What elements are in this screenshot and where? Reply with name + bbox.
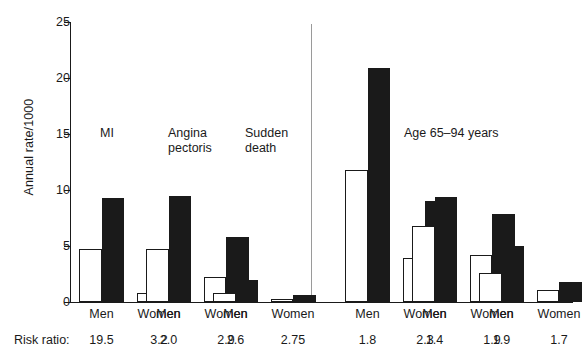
risk-ratio-value-12: 1.7: [529, 333, 583, 347]
category-label-left-panel-0: Men: [71, 307, 132, 321]
category-label-right-panel-0: Men: [337, 307, 398, 321]
annotation-mi: MI: [100, 126, 114, 141]
category-label-left-panel-2: Men: [138, 307, 199, 321]
bar-solid-right-panel-0: [368, 68, 391, 302]
risk-ratio-value-1: 19.5: [71, 333, 132, 347]
bar-open-right-panel-0: [345, 170, 368, 302]
annotation-sudden-death: Sudden death: [245, 126, 288, 156]
category-label-right-panel-4: Men: [471, 307, 532, 321]
category-label-left-panel-4: Men: [205, 307, 266, 321]
category-label-left-panel-5: Women: [263, 307, 324, 321]
bar-solid-left-panel-0: [102, 198, 125, 302]
bar-open-right-panel-2: [412, 226, 435, 302]
bar-open-right-panel-5: [537, 290, 560, 302]
bar-open-right-panel-4: [479, 273, 502, 302]
annotation-angina-pectoris: Angina pectoris: [168, 126, 212, 156]
bar-solid-right-panel-5: [559, 282, 582, 302]
risk-ratio-value-5: 2.6: [205, 333, 266, 347]
annotation-age-range: Age 65–94 years: [404, 126, 499, 141]
category-label-right-panel-5: Women: [529, 307, 583, 321]
bar-open-left-panel-0: [79, 249, 102, 302]
risk-ratio-value-9: 1.4: [404, 333, 465, 347]
bar-open-left-panel-5: [271, 299, 294, 302]
category-label-right-panel-2: Men: [404, 307, 465, 321]
risk-ratio-value-3: 2.0: [138, 333, 199, 347]
y-axis-label: Annual rate/1000: [22, 72, 36, 222]
bar-solid-left-panel-2: [169, 196, 192, 302]
bar-solid-left-panel-4: [236, 280, 259, 302]
bar-open-left-panel-4: [213, 293, 236, 302]
bar-solid-right-panel-2: [435, 197, 458, 302]
bar-solid-right-panel-4: [502, 246, 525, 302]
plot-area: [70, 22, 573, 302]
risk-ratio-value-6: 2.75: [263, 333, 324, 347]
risk-ratio-value-11: 1.9: [471, 333, 532, 347]
bar-chart-figure: Annual rate/1000 0 5 10 15 20 25 MI Angi…: [0, 0, 583, 360]
risk-ratio-label: Risk ratio:: [14, 333, 70, 347]
risk-ratio-value-7: 1.8: [337, 333, 398, 347]
bar-solid-left-panel-5: [293, 295, 316, 302]
x-axis-line: [70, 302, 573, 303]
bar-open-left-panel-2: [146, 249, 169, 302]
